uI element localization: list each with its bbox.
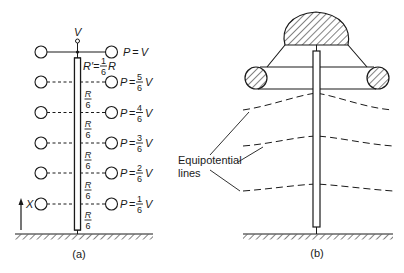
leader-2 bbox=[238, 147, 263, 162]
svg-text:V: V bbox=[145, 198, 154, 210]
resistor-top-label: R′= 1 6 R bbox=[83, 56, 116, 77]
svg-text:6: 6 bbox=[85, 161, 90, 171]
svg-text:R: R bbox=[85, 150, 92, 160]
insulator-rod bbox=[313, 51, 320, 227]
left-terminal-circle bbox=[35, 137, 47, 149]
svg-text:6: 6 bbox=[137, 144, 142, 154]
svg-text:R: R bbox=[85, 119, 92, 129]
right-terminal-circle bbox=[106, 167, 118, 179]
svg-text:6: 6 bbox=[85, 221, 90, 231]
svg-text:=: = bbox=[129, 198, 135, 210]
potential-label-row-2: P = 4 6 V bbox=[120, 103, 154, 124]
row-eq: = bbox=[132, 46, 138, 58]
panel-b: Equipotential lines (b) bbox=[178, 12, 393, 259]
row-0: P=V bbox=[35, 46, 150, 58]
label-line-1: Equipotential bbox=[178, 154, 242, 166]
right-terminal-circle bbox=[106, 46, 118, 58]
right-terminal-circle bbox=[106, 76, 118, 88]
row-rhs: V bbox=[141, 46, 150, 58]
svg-text:6: 6 bbox=[85, 191, 90, 201]
segment-label-1: R 6 bbox=[85, 89, 92, 110]
svg-text:P: P bbox=[120, 76, 128, 88]
leader-1 bbox=[210, 112, 249, 155]
potential-label-row-5: P = 1 6 V bbox=[120, 194, 154, 215]
potential-label-row-4: P = 2 6 V bbox=[120, 163, 154, 184]
x-axis-arrow: X bbox=[19, 198, 35, 230]
svg-text:P=V: P=V bbox=[123, 46, 150, 58]
left-terminal-circle bbox=[35, 107, 47, 119]
svg-text:6: 6 bbox=[137, 114, 142, 124]
svg-text:1: 1 bbox=[137, 194, 142, 204]
svg-text:=: = bbox=[129, 137, 135, 149]
left-terminal-circle bbox=[35, 76, 47, 88]
right-terminal-circle bbox=[106, 107, 118, 119]
svg-text:=: = bbox=[129, 76, 135, 88]
svg-text:3: 3 bbox=[137, 133, 142, 143]
grading-ring-right bbox=[367, 67, 389, 89]
segment-label-3: R 6 bbox=[85, 150, 92, 171]
top-electrode-dome bbox=[284, 12, 349, 45]
potential-label-row-3: P = 3 6 V bbox=[120, 133, 154, 154]
svg-text:=: = bbox=[129, 107, 135, 119]
row-lhs: P bbox=[123, 46, 131, 58]
caption-a: (a) bbox=[72, 248, 85, 260]
left-terminal-circle bbox=[35, 198, 47, 210]
svg-text:6: 6 bbox=[137, 83, 142, 93]
potential-label-row-1: P = 5 6 V bbox=[120, 72, 154, 93]
svg-text:1: 1 bbox=[101, 56, 106, 66]
svg-text:6: 6 bbox=[137, 205, 142, 215]
segment-label-2: R 6 bbox=[85, 119, 92, 140]
svg-text:R: R bbox=[85, 180, 92, 190]
resistor-rod-front bbox=[75, 58, 81, 230]
svg-text:5: 5 bbox=[137, 72, 142, 82]
svg-text:=: = bbox=[129, 167, 135, 179]
figure: V P=V bbox=[0, 0, 404, 273]
svg-text:V: V bbox=[145, 107, 154, 119]
left-terminal-circle bbox=[35, 46, 47, 58]
svg-text:6: 6 bbox=[101, 67, 106, 77]
svg-text:2: 2 bbox=[137, 163, 142, 173]
svg-text:R: R bbox=[108, 60, 116, 72]
segment-label-5: R 6 bbox=[85, 210, 92, 231]
svg-text:P: P bbox=[120, 107, 128, 119]
svg-text:R: R bbox=[85, 89, 92, 99]
svg-text:V: V bbox=[145, 167, 154, 179]
svg-text:6: 6 bbox=[137, 174, 142, 184]
segment-label-4: R 6 bbox=[85, 180, 92, 201]
svg-text:V: V bbox=[145, 137, 154, 149]
source-terminal bbox=[76, 39, 80, 43]
svg-text:P: P bbox=[120, 167, 128, 179]
panel-a: V P=V bbox=[15, 26, 154, 260]
ground-b bbox=[243, 234, 393, 240]
ground-a bbox=[15, 234, 153, 240]
svg-text:R: R bbox=[85, 210, 92, 220]
svg-text:R′=: R′= bbox=[83, 60, 100, 72]
leader-3 bbox=[210, 170, 240, 191]
equipotential-label: Equipotential lines bbox=[178, 112, 263, 191]
caption-b: (b) bbox=[310, 247, 323, 259]
grading-ring-left bbox=[245, 67, 267, 89]
svg-text:V: V bbox=[145, 76, 154, 88]
svg-text:4: 4 bbox=[137, 103, 142, 113]
label-line-2: lines bbox=[178, 167, 201, 179]
svg-text:6: 6 bbox=[85, 100, 90, 110]
source-label: V bbox=[74, 26, 83, 38]
svg-text:6: 6 bbox=[85, 130, 90, 140]
x-axis-label: X bbox=[25, 198, 34, 210]
svg-text:P: P bbox=[120, 137, 128, 149]
right-terminal-circle bbox=[106, 198, 118, 210]
left-terminal-circle bbox=[35, 167, 47, 179]
right-terminal-circle bbox=[106, 137, 118, 149]
svg-text:P: P bbox=[120, 198, 128, 210]
